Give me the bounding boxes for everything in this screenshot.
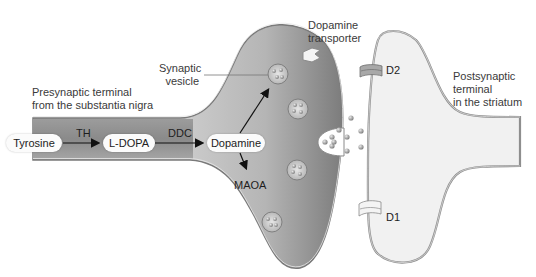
- dopamine-transporter-label: Dopamine transporter: [308, 19, 361, 45]
- vesicle-label-line1: Synaptic: [159, 62, 199, 75]
- presynaptic-label: Presynaptic terminal from the substantia…: [32, 86, 153, 112]
- synaptic-vesicle: [268, 64, 288, 84]
- node-l-dopa: L-DOPA: [103, 134, 155, 152]
- enzyme-th-label: TH: [76, 127, 91, 140]
- transporter-label-line1: Dopamine: [308, 19, 361, 32]
- vesicle-label-line2: vesicle: [159, 75, 199, 88]
- presynaptic-terminal: [33, 23, 343, 268]
- transporter-label-line2: transporter: [308, 32, 361, 45]
- maoa-label: MAOA: [234, 179, 266, 192]
- node-dopamine: Dopamine: [207, 134, 265, 152]
- postsynaptic-label: Postsynaptic terminal in the striatum: [453, 70, 522, 109]
- d2-label: D2: [386, 64, 400, 77]
- node-tyrosine: Tyrosine: [6, 134, 62, 152]
- presynaptic-label-line1: Presynaptic terminal: [32, 86, 153, 99]
- synaptic-vesicle: [288, 99, 308, 119]
- d1-label: D1: [386, 211, 400, 224]
- presynaptic-label-line2: from the substantia nigra: [32, 99, 153, 112]
- postsynaptic-label-line1: Postsynaptic: [453, 70, 522, 83]
- synaptic-vesicle: [262, 212, 282, 232]
- enzyme-ddc-label: DDC: [168, 127, 192, 140]
- synaptic-vesicle: [287, 160, 307, 180]
- synaptic-vesicle-label: Synaptic vesicle: [159, 62, 199, 88]
- postsynaptic-label-line3: in the striatum: [453, 96, 522, 109]
- postsynaptic-label-line2: terminal: [453, 83, 522, 96]
